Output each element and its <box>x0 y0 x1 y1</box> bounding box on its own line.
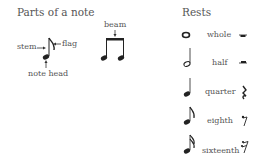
quarter-rest-icon <box>243 86 246 99</box>
rest-label-sixteenth: sixteenth <box>202 146 239 155</box>
stem-arrow-icon <box>37 47 46 50</box>
eighth-note-icon-row <box>183 107 194 125</box>
rest-label-quarter: quarter <box>205 87 236 96</box>
sixteenth-rest-icon <box>241 141 248 153</box>
beamed-notes-icon <box>100 38 125 61</box>
eighth-note-icon <box>42 38 54 60</box>
rests-title: Rests <box>182 6 211 18</box>
whole-note-icon <box>183 33 190 38</box>
beam-arrow-icon <box>114 30 117 37</box>
rest-label-whole: whole <box>207 30 231 39</box>
rest-label-half: half <box>212 58 227 67</box>
quarter-note-icon <box>183 78 191 97</box>
rest-label-eighth: eighth <box>207 116 233 125</box>
whole-rest-icon <box>239 35 247 37</box>
notation-diagram <box>0 0 267 164</box>
half-note-icon <box>183 48 191 67</box>
half-rest-icon <box>239 61 247 63</box>
sixteenth-note-icon <box>183 135 194 154</box>
note-head-arrow-icon <box>45 60 48 68</box>
eighth-rest-icon <box>242 116 247 126</box>
